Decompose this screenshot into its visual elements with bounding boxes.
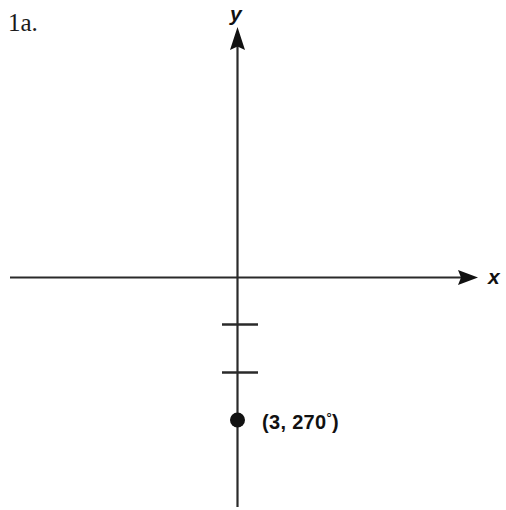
point-label-close-paren: ): [332, 411, 340, 433]
point-label-separator: ,: [280, 411, 292, 433]
point-label-angle: 270: [292, 411, 326, 433]
point-label-open-paren: (: [262, 411, 269, 433]
coordinate-axes-drawing: [0, 0, 506, 510]
plotted-point-marker: [230, 413, 245, 428]
point-label-radius: 3: [269, 411, 280, 433]
plotted-point-label: (3, 270°): [262, 411, 340, 432]
y-axis-label: y: [230, 3, 242, 24]
polar-point-figure: 1a. y x (3, 270°): [0, 0, 506, 510]
x-axis-arrowhead: [458, 270, 478, 285]
x-axis-label: x: [488, 266, 500, 287]
problem-number-label: 1a.: [8, 10, 38, 35]
